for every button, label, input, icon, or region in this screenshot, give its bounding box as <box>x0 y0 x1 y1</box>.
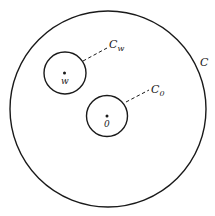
label-C: C <box>200 56 209 69</box>
point-0 <box>106 115 109 118</box>
label-C-0: C0 <box>151 83 165 98</box>
label-C-w: Cw <box>109 38 124 53</box>
leader-line-C-0 <box>126 90 149 102</box>
outer-contour-C <box>10 11 206 207</box>
contour-diagram: C w Cw 0 C0 <box>0 0 215 216</box>
point-w-label: w <box>61 76 69 86</box>
point-0-label: 0 <box>104 119 110 129</box>
point-w <box>63 72 66 75</box>
leader-line-C-w <box>83 48 107 61</box>
